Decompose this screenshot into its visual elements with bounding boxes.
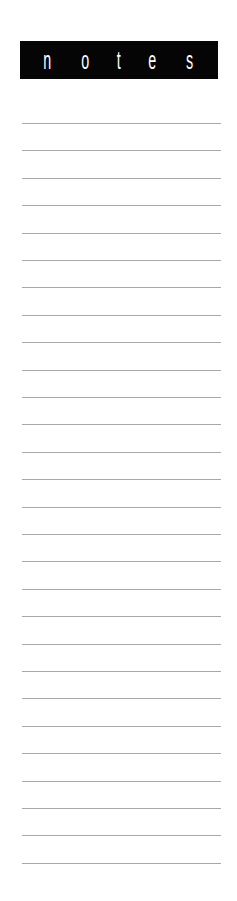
ruled-line (22, 616, 221, 617)
ruled-line (22, 479, 221, 480)
ruled-line (22, 781, 221, 782)
ruled-line (22, 397, 221, 398)
ruled-line (22, 205, 221, 206)
ruled-line (22, 589, 221, 590)
ruled-line (22, 452, 221, 453)
ruled-line (22, 507, 221, 508)
ruled-line (22, 315, 221, 316)
ruled-line (22, 370, 221, 371)
ruled-line (22, 150, 221, 151)
title-letter: e (149, 41, 157, 79)
title-letter: s (186, 41, 193, 79)
ruled-line (22, 534, 221, 535)
title-letter: n (43, 41, 51, 79)
ruled-line (22, 644, 221, 645)
ruled-line (22, 260, 221, 261)
ruled-line (22, 753, 221, 754)
ruled-line (22, 561, 221, 562)
ruled-line (22, 123, 221, 124)
ruled-line (22, 863, 221, 864)
ruled-line (22, 233, 221, 234)
title-letter: o (81, 41, 89, 79)
notes-title-bar: n o t e s (20, 41, 218, 79)
ruled-line (22, 671, 221, 672)
ruled-line (22, 178, 221, 179)
ruled-line (22, 342, 221, 343)
title-letter: t (117, 41, 121, 79)
ruled-line (22, 835, 221, 836)
ruled-line (22, 424, 221, 425)
ruled-line (22, 698, 221, 699)
ruled-line (22, 287, 221, 288)
ruled-line (22, 808, 221, 809)
ruled-line (22, 726, 221, 727)
